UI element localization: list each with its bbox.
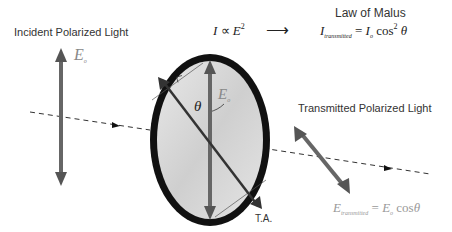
transmission-axis-label: T.A. bbox=[255, 213, 272, 224]
incident-field-symbol: Eo bbox=[74, 46, 87, 64]
transmitted-light-label: Transmitted Polarized Light bbox=[298, 102, 432, 114]
proportional-equation: I ∝ E2 bbox=[213, 22, 245, 39]
transmitted-field-arrow bbox=[294, 126, 350, 194]
malus-equation: Itransmitted = Io cos2 θ bbox=[320, 22, 407, 39]
transmitted-field-equation: Etransmitted = Eo cosθ bbox=[333, 200, 420, 216]
angle-theta: θ bbox=[194, 98, 201, 115]
polarizer bbox=[150, 54, 270, 226]
incident-field-arrow bbox=[55, 48, 67, 186]
incident-light-label: Incident Polarized Light bbox=[14, 26, 128, 38]
arrow-icon: ⟶ bbox=[266, 20, 289, 39]
law-of-malus-title: Law of Malus bbox=[335, 6, 406, 20]
polarizer-field-symbol: Eo bbox=[218, 86, 230, 103]
